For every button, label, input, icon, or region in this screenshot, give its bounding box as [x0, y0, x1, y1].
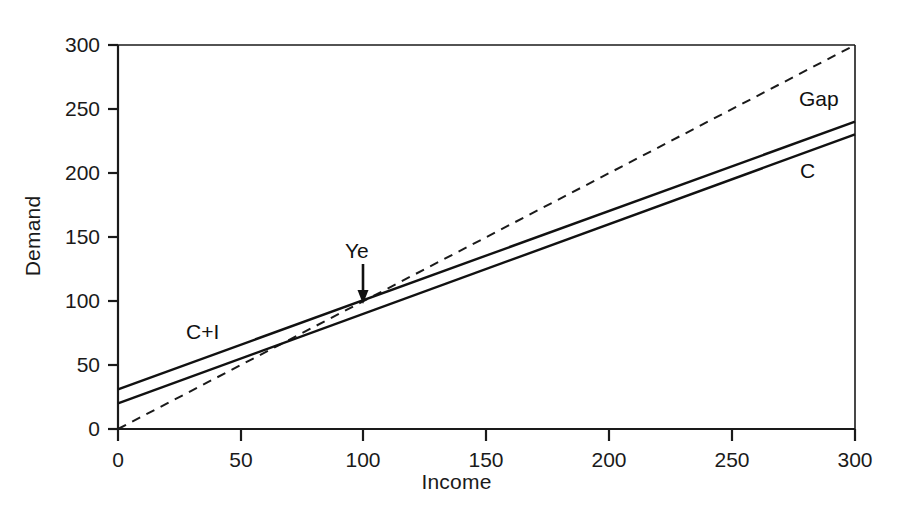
- y-tick-label-50: 50: [40, 353, 100, 377]
- x-axis-title: Income: [0, 470, 913, 494]
- y-tick-label-300: 300: [40, 33, 100, 57]
- y-axis-ticks: [108, 45, 118, 429]
- x-tick-label-300: 300: [837, 448, 872, 472]
- series-label-c: C: [800, 159, 815, 183]
- y-axis-title: Demand: [21, 176, 45, 296]
- y-tick-label-0: 0: [40, 417, 100, 441]
- x-tick-label-0: 0: [112, 448, 124, 472]
- economics-keynesian-cross-chart: 300 250 200 150 100 50 0 0 50 100 150 20…: [0, 0, 913, 512]
- series-c-line: [118, 134, 855, 403]
- x-tick-label-50: 50: [229, 448, 252, 472]
- x-axis-ticks: [118, 429, 855, 441]
- y-tick-label-250: 250: [40, 97, 100, 121]
- y-tick-label-150: 150: [40, 225, 100, 249]
- x-tick-label-250: 250: [714, 448, 749, 472]
- y-tick-label-200: 200: [40, 161, 100, 185]
- series-c-plus-i-line: [118, 122, 855, 390]
- chart-canvas: [0, 0, 913, 512]
- x-tick-label-150: 150: [468, 448, 503, 472]
- x-tick-label-200: 200: [591, 448, 626, 472]
- annotation-label-ye: Ye: [345, 239, 369, 263]
- y-tick-label-100: 100: [40, 289, 100, 313]
- annotation-label-gap: Gap: [799, 87, 839, 111]
- series-label-c-plus-i: C+I: [186, 320, 219, 344]
- series-45-degree-line: [118, 45, 855, 429]
- x-tick-label-100: 100: [345, 448, 380, 472]
